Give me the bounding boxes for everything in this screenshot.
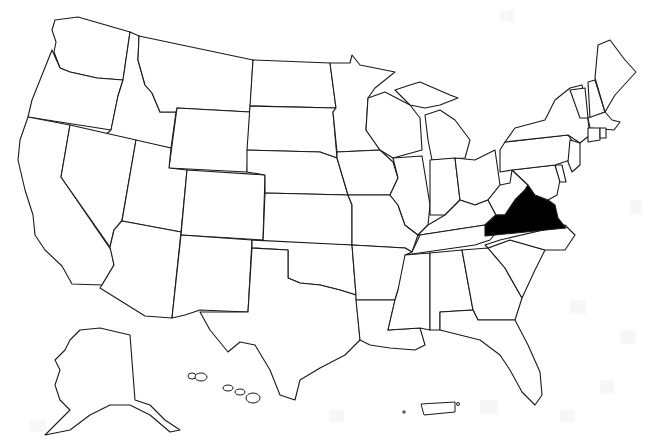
state-kansas[interactable] — [263, 193, 352, 245]
state-hawaii[interactable] — [188, 373, 260, 403]
state-north-dakota[interactable] — [250, 60, 336, 108]
state-rhode-island[interactable] — [600, 128, 606, 138]
state-alaska[interactable] — [45, 328, 180, 435]
map-canvas — [0, 0, 654, 446]
state-iowa[interactable] — [337, 150, 398, 195]
us-map: United States map Virginia — [0, 0, 654, 446]
state-arizona[interactable] — [100, 221, 181, 318]
state-new-mexico[interactable] — [172, 235, 252, 318]
state-colorado[interactable] — [181, 170, 265, 240]
state-michigan-lower[interactable] — [425, 110, 470, 160]
territory-puerto-rico[interactable] — [403, 402, 460, 415]
state-new-jersey[interactable] — [568, 140, 580, 172]
state-florida[interactable] — [440, 310, 542, 405]
state-montana[interactable] — [138, 36, 253, 112]
state-connecticut[interactable] — [588, 128, 600, 142]
state-wyoming[interactable] — [169, 108, 250, 172]
